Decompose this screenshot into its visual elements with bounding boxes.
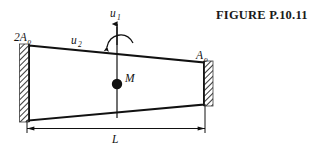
mass-label: M [124, 72, 136, 84]
left-area-subscript: o [28, 37, 32, 46]
right-fixed-support-hatch [204, 61, 213, 106]
mass-marker [112, 79, 122, 89]
tapered-beam-diagram: 2A o A o u 1 u 2 M L [0, 0, 325, 150]
left-fixed-support-hatch [20, 44, 30, 122]
u1-label: u [110, 7, 116, 19]
right-area-subscript: o [204, 55, 208, 64]
right-area-label: A [195, 49, 204, 61]
u2-subscript: 2 [78, 40, 82, 49]
left-area-label: 2A [14, 31, 28, 43]
figure-container: FIGURE P.10.11 [0, 0, 325, 150]
u1-subscript: 1 [117, 13, 121, 22]
u2-rotation-arc [107, 35, 133, 47]
length-label: L [111, 133, 118, 145]
u2-label: u [71, 34, 77, 46]
